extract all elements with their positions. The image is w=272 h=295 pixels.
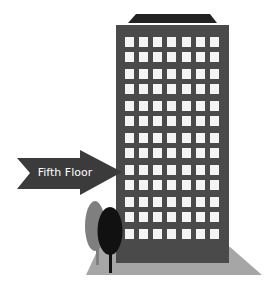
window <box>182 180 191 190</box>
window <box>125 212 134 222</box>
window <box>210 212 219 222</box>
window <box>196 180 205 190</box>
window <box>167 197 176 207</box>
window <box>196 69 205 79</box>
window <box>153 229 162 239</box>
window <box>125 116 134 126</box>
window <box>196 133 205 143</box>
window <box>139 37 148 47</box>
window <box>182 84 191 94</box>
window <box>182 101 191 111</box>
window <box>153 133 162 143</box>
window <box>125 37 134 47</box>
window <box>153 101 162 111</box>
window <box>167 180 176 190</box>
window <box>125 69 134 79</box>
window <box>139 148 148 158</box>
window <box>182 197 191 207</box>
window <box>125 165 134 175</box>
window <box>210 116 219 126</box>
window <box>167 69 176 79</box>
window <box>167 37 176 47</box>
window <box>182 165 191 175</box>
window <box>196 52 205 62</box>
window <box>153 165 162 175</box>
window <box>139 116 148 126</box>
building-roof <box>128 14 217 23</box>
window <box>153 84 162 94</box>
window <box>196 212 205 222</box>
window <box>182 133 191 143</box>
window <box>210 148 219 158</box>
window <box>125 180 134 190</box>
window <box>196 101 205 111</box>
window <box>210 101 219 111</box>
window <box>125 197 134 207</box>
window <box>210 229 219 239</box>
window <box>210 180 219 190</box>
window <box>196 116 205 126</box>
window <box>196 197 205 207</box>
window <box>210 165 219 175</box>
window <box>139 197 148 207</box>
window <box>153 37 162 47</box>
window <box>167 212 176 222</box>
front-tree <box>98 207 123 255</box>
window <box>182 52 191 62</box>
window <box>210 84 219 94</box>
window <box>139 133 148 143</box>
building-illustration: Fifth Floor <box>0 0 272 295</box>
window <box>196 148 205 158</box>
window <box>210 197 219 207</box>
window <box>210 37 219 47</box>
arrow-label: Fifth Floor <box>30 164 100 182</box>
window <box>210 52 219 62</box>
window <box>139 212 148 222</box>
window <box>139 101 148 111</box>
window <box>153 180 162 190</box>
window <box>153 212 162 222</box>
window <box>196 37 205 47</box>
window <box>210 133 219 143</box>
window <box>196 165 205 175</box>
window <box>182 37 191 47</box>
window <box>125 229 134 239</box>
window <box>167 101 176 111</box>
window <box>167 133 176 143</box>
window <box>153 148 162 158</box>
window <box>196 84 205 94</box>
window <box>125 52 134 62</box>
window <box>167 165 176 175</box>
window <box>153 52 162 62</box>
window <box>139 229 148 239</box>
window <box>182 212 191 222</box>
window <box>167 229 176 239</box>
window <box>139 52 148 62</box>
window <box>125 133 134 143</box>
window <box>125 148 134 158</box>
window <box>139 180 148 190</box>
window <box>153 116 162 126</box>
window <box>139 165 148 175</box>
window <box>167 116 176 126</box>
window <box>182 148 191 158</box>
window <box>196 229 205 239</box>
window <box>125 84 134 94</box>
window <box>125 101 134 111</box>
window <box>167 84 176 94</box>
window <box>182 116 191 126</box>
window <box>153 69 162 79</box>
window <box>167 148 176 158</box>
window <box>153 197 162 207</box>
window <box>210 69 219 79</box>
window <box>139 84 148 94</box>
window <box>167 52 176 62</box>
window <box>182 69 191 79</box>
window <box>182 229 191 239</box>
window <box>139 69 148 79</box>
